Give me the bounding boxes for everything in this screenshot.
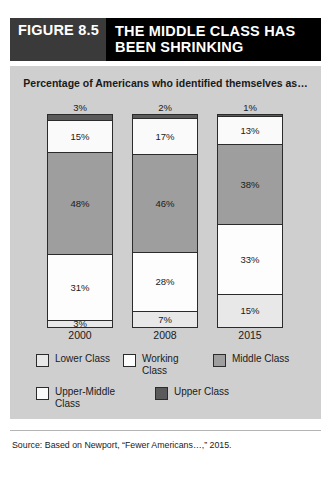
figure-header: FIGURE 8.5 THE MIDDLE CLASS HAS BEEN SHR… xyxy=(10,18,321,61)
legend-row-top: Lower Class Working Class Middle Class xyxy=(10,353,321,386)
bar-segment-working-class: 31% xyxy=(48,255,112,321)
bar-segment-label: 7% xyxy=(158,315,172,325)
figure-title: THE MIDDLE CLASS HAS BEEN SHRINKING xyxy=(106,18,321,61)
plot-area: 3% 3% 15% 48% 31% 3% xyxy=(10,116,321,328)
bar-segment-upper-middle-class: 13% xyxy=(218,117,282,145)
bar-segment-label: 48% xyxy=(70,199,89,209)
legend-item-upper-class: Upper Class xyxy=(155,386,229,400)
source-divider xyxy=(10,430,321,431)
bar-segment-label: 15% xyxy=(70,132,89,142)
bar-group-2008: 2% 2% 17% 46% 28% 7% xyxy=(132,114,198,328)
bar-segment-lower-class: 15% xyxy=(218,295,282,327)
stacked-bar: 2% 17% 46% 28% 7% xyxy=(132,114,198,328)
legend-label: Middle Class xyxy=(232,353,289,365)
x-axis-tick-2000: 2000 xyxy=(47,330,113,341)
bar-segment-middle-class: 48% xyxy=(48,153,112,255)
legend-item-middle-class: Middle Class xyxy=(213,353,289,367)
figure-header-line: FIGURE 8.5 THE MIDDLE CLASS HAS BEEN SHR… xyxy=(10,18,321,61)
x-axis-tick-2008: 2008 xyxy=(132,330,198,341)
bar-segment-label: 3% xyxy=(73,319,87,329)
figure-number-tag: FIGURE 8.5 xyxy=(10,18,106,61)
bar-segment-label: 15% xyxy=(240,306,259,316)
legend-swatch-icon xyxy=(213,354,226,367)
bar-segment-working-class: 28% xyxy=(133,253,197,312)
bar-segment-middle-class: 46% xyxy=(133,155,197,253)
bar-segment-upper-middle-class: 15% xyxy=(48,121,112,153)
bar-segment-lower-class: 7% xyxy=(133,312,197,327)
bar-top-label: 2% xyxy=(132,103,198,115)
bar-group-2015: 1% 1% 13% 38% 33% 15% xyxy=(217,114,283,328)
legend-swatch-icon xyxy=(36,387,49,400)
legend-label: Lower Class xyxy=(55,353,110,365)
legend-swatch-icon xyxy=(36,354,49,367)
bar-segment-label: 28% xyxy=(155,277,174,287)
bar-group-2000: 3% 3% 15% 48% 31% 3% xyxy=(47,114,113,328)
x-axis-labels: 2000 2008 2015 xyxy=(10,330,321,346)
bar-segment-label: 31% xyxy=(70,283,89,293)
figure-card: FIGURE 8.5 THE MIDDLE CLASS HAS BEEN SHR… xyxy=(0,0,331,477)
source-note: Source: Based on Newport, “Fewer America… xyxy=(12,440,317,451)
legend-item-working-class: Working Class xyxy=(123,353,204,377)
legend-row-bottom: Upper-Middle Class Upper Class xyxy=(10,386,321,419)
bar-segment-upper-middle-class: 17% xyxy=(133,119,197,155)
bar-segment-lower-class: 3% xyxy=(48,321,112,327)
stacked-bar: 1% 13% 38% 33% 15% xyxy=(217,114,283,328)
bar-top-label: 1% xyxy=(217,103,283,115)
legend-label: Upper-Middle Class xyxy=(55,386,141,410)
bar-segment-label: 17% xyxy=(155,132,174,142)
legend-label: Upper Class xyxy=(174,386,229,398)
legend-item-lower-class: Lower Class xyxy=(36,353,110,367)
chart-legend: Lower Class Working Class Middle Class U… xyxy=(10,353,321,419)
stacked-bar: 3% 15% 48% 31% 3% xyxy=(47,114,113,328)
bar-segment-label: 13% xyxy=(240,126,259,136)
bar-segment-label: 38% xyxy=(240,180,259,190)
chart-subtitle: Percentage of Americans who identified t… xyxy=(10,77,321,91)
bar-top-label: 3% xyxy=(47,103,113,115)
legend-swatch-icon xyxy=(155,387,168,400)
bar-segment-label: 33% xyxy=(240,255,259,265)
bar-segment-working-class: 33% xyxy=(218,225,282,295)
chart-panel: Percentage of Americans who identified t… xyxy=(10,66,321,419)
legend-swatch-icon xyxy=(123,354,136,367)
bar-segment-label: 46% xyxy=(155,199,174,209)
legend-label: Working Class xyxy=(142,353,204,377)
bar-segment-middle-class: 38% xyxy=(218,145,282,226)
x-axis-tick-2015: 2015 xyxy=(217,330,283,341)
legend-item-upper-middle-class: Upper-Middle Class xyxy=(36,386,141,410)
